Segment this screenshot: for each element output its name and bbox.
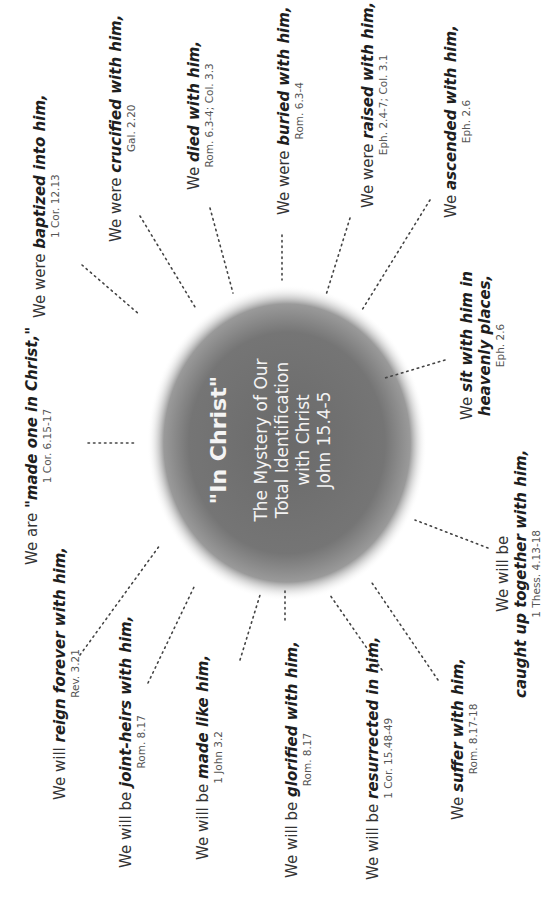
item-made-one: We are "made one in Christ," 1 Cor. 6.15… <box>22 327 54 565</box>
item-ref: Rom. 8.17 <box>301 641 314 878</box>
item-sit: We sit with him in heavenly places, Eph.… <box>458 271 507 420</box>
item-ref: Rev. 3.21 <box>69 547 82 800</box>
connector-line <box>140 216 195 307</box>
item-crucified: We were crucified with him, Gal. 2.20 <box>106 15 138 242</box>
item-caught-up: We will be caught up together with him, … <box>494 450 543 698</box>
item-text: We were buried with him, <box>275 6 293 215</box>
center-line: with Christ <box>293 320 314 560</box>
item-text: We will be joint-heirs with him, <box>117 616 135 868</box>
item-text: We will be glorified with him, <box>283 641 301 878</box>
item-resurrected: We will be resurrected in him, 1 Cor. 15… <box>363 636 395 880</box>
connector-line <box>210 208 233 293</box>
connector-line <box>326 218 350 295</box>
item-made-like: We will be made like him, 1 John 3.2 <box>193 655 225 860</box>
item-ref: 1 Cor. 12.13 <box>49 94 62 318</box>
item-baptized: We were baptized into him, 1 Cor. 12.13 <box>30 94 62 318</box>
item-ref: Rom. 6.3-4; Col. 3.3 <box>203 41 216 190</box>
item-ref: Eph. 2.6 <box>494 271 507 420</box>
item-ref: Rom. 8.17-18 <box>467 658 480 820</box>
item-ref: Rom. 6.3-4 <box>293 6 306 215</box>
center-title: "In Christ" <box>205 320 233 560</box>
item-ref: Eph. 2.6 <box>460 25 473 218</box>
item-glorified: We will be glorified with him, Rom. 8.17 <box>282 641 314 878</box>
item-text: We will be <box>494 450 512 698</box>
item-text: We are "made one in Christ," <box>23 327 41 565</box>
item-text: We were crucified with him, <box>107 15 125 242</box>
item-ref: 1 John 3.2 <box>212 655 225 860</box>
item-text: We died with him, <box>185 41 203 190</box>
item-ref: Rom. 8.17 <box>135 616 148 868</box>
item-text: We will be resurrected in him, <box>364 636 382 880</box>
item-text: We ascended with him, <box>442 25 460 218</box>
item-ascended: We ascended with him, Eph. 2.6 <box>441 25 473 218</box>
item-reign: We will reign forever with him, Rev. 3.2… <box>50 547 82 800</box>
item-ref: 1 Thess. 4.13-18 <box>530 450 543 698</box>
center-line: John 15.4-5 <box>314 320 335 560</box>
item-ref: Gal. 2.20 <box>125 15 138 242</box>
connector-line <box>82 265 140 315</box>
connector-line <box>415 520 488 548</box>
item-joint-heirs: We will be joint-heirs with him, Rom. 8.… <box>116 616 148 868</box>
center-line: Total Identification <box>272 320 293 560</box>
center-caption: "In Christ" The Mystery of Our Total Ide… <box>205 320 335 560</box>
item-ref: 1 Cor. 6.15-17 <box>41 327 54 565</box>
item-text: We sit with him in <box>458 271 476 420</box>
item-text: We suffer with him, <box>449 658 467 820</box>
connector-line <box>362 200 430 310</box>
item-raised: We were raised with him, Eph. 2.4-7; Col… <box>358 2 390 208</box>
item-died: We died with him, Rom. 6.3-4; Col. 3.3 <box>184 41 216 190</box>
identification-diagram: "In Christ" The Mystery of Our Total Ide… <box>0 0 556 904</box>
item-text: We will be made like him, <box>194 655 212 860</box>
item-buried: We were buried with him, Rom. 6.3-4 <box>274 6 306 215</box>
item-suffer: We suffer with him, Rom. 8.17-18 <box>448 658 480 820</box>
item-ref: Eph. 2.4-7; Col. 3.1 <box>377 2 390 208</box>
item-ref: 1 Cor. 15.48-49 <box>382 636 395 880</box>
item-text: We were raised with him, <box>359 2 377 208</box>
center-line: The Mystery of Our <box>251 320 272 560</box>
connector-line <box>240 595 260 660</box>
connector-line <box>148 585 195 683</box>
item-text: We will reign forever with him, <box>51 547 69 800</box>
item-text: We were baptized into him, <box>31 94 49 318</box>
